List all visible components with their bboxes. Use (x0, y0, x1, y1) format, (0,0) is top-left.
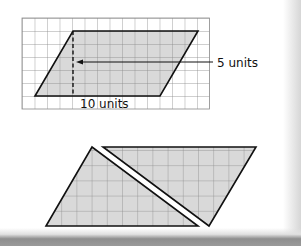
top-figure: 5 units 10 units (22, 18, 258, 111)
base-label: 10 units (80, 97, 129, 111)
bottom-shadow-band (0, 228, 301, 246)
page-edge-shadow (283, 0, 301, 246)
bottom-figure (40, 140, 260, 230)
height-label: 5 units (217, 56, 258, 70)
diagram-canvas: 5 units 10 units (0, 0, 301, 246)
